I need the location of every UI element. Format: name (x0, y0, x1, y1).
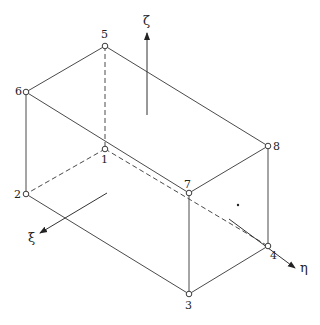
node-6 (23, 89, 29, 95)
eta-axis-arrow (229, 219, 295, 268)
node-label-3: 3 (185, 299, 192, 312)
node-label-6: 6 (15, 85, 22, 98)
node-7 (186, 190, 192, 196)
node-5 (102, 43, 108, 49)
node-label-8: 8 (273, 140, 280, 153)
eta-label: η (300, 260, 308, 275)
xi-axis-arrow (40, 193, 107, 233)
node-label-4: 4 (270, 249, 277, 262)
node-8 (265, 143, 271, 149)
centroid-dot (237, 204, 239, 206)
node-3 (186, 291, 192, 297)
zeta-label: ζ (143, 13, 150, 28)
local-axes (40, 33, 295, 268)
node-label-2: 2 (14, 188, 21, 201)
node-2 (23, 191, 29, 197)
node-1 (102, 146, 108, 152)
xi-label: ξ (28, 230, 35, 245)
node-label-5: 5 (101, 28, 108, 41)
node-label-1: 1 (101, 153, 108, 166)
node-label-7: 7 (184, 178, 191, 191)
node-4 (265, 243, 271, 249)
hexahedron-diagram: 1 2 3 4 5 6 7 8 ζ ξ η (0, 0, 320, 325)
